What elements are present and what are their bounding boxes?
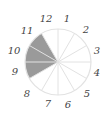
label-4: 4 [93,67,100,78]
label-7: 7 [45,98,52,109]
label-2: 2 [82,24,89,35]
label-9: 9 [12,66,19,77]
label-12: 12 [40,13,53,24]
label-10: 10 [8,45,21,56]
fraction-circle-diagram: 12 1 2 3 4 5 6 7 8 9 10 11 [0,0,109,117]
label-11: 11 [21,25,34,36]
label-8: 8 [24,88,30,99]
label-3: 3 [94,45,100,56]
label-5: 5 [84,88,90,99]
label-6: 6 [65,99,72,110]
label-1: 1 [64,13,70,24]
